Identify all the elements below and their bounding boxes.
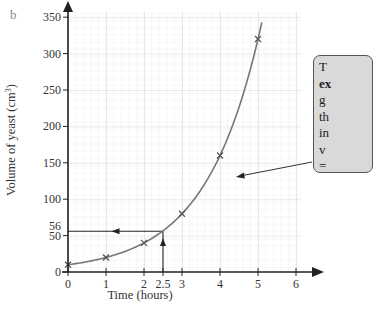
callout-line: =: [319, 158, 372, 173]
y-tick-label: 100: [43, 192, 61, 206]
y-tick-label: 250: [43, 83, 61, 97]
y-tick-label: 0: [55, 265, 61, 279]
y-ticks: 05056100150200250300350: [43, 10, 68, 279]
callout-line: in: [319, 125, 372, 142]
x-tick-label: 3: [179, 277, 185, 291]
annotation-callout: T ex g th in v =: [313, 55, 373, 173]
y-axis-arrow-icon: [63, 1, 73, 12]
figure-label: b: [10, 7, 17, 22]
x-tick-label: 6: [293, 277, 299, 291]
x-tick-label: 0: [65, 277, 71, 291]
x-axis-arrow-icon: [312, 267, 324, 277]
y-tick-label: 300: [43, 47, 61, 61]
callout-line-bold: ex: [319, 76, 372, 93]
y-tick-label: 56: [49, 219, 61, 233]
callout-line: g: [319, 92, 372, 109]
y-tick-label: 350: [43, 10, 61, 24]
callout-line: th: [319, 109, 372, 126]
x-axis-label: Time (hours): [107, 288, 172, 302]
callout-line: T: [319, 59, 372, 76]
x-tick-label: 5: [255, 277, 261, 291]
grid: [68, 12, 301, 272]
y-tick-label: 150: [43, 156, 61, 170]
callout-line: v: [319, 142, 372, 159]
x-tick-label: 4: [217, 277, 223, 291]
y-axis-label: Volume of yeast (cm3): [4, 84, 18, 196]
y-tick-label: 200: [43, 119, 61, 133]
